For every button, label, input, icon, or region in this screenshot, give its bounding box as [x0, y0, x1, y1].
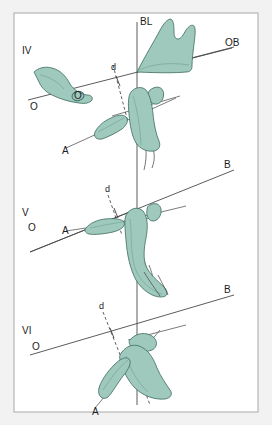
panel-label-vi: VI: [22, 325, 31, 336]
panel-label-v: V: [22, 207, 29, 218]
figure-root: IV BL OB O O d A V B O: [0, 0, 272, 425]
label-d-panel-v: d: [105, 184, 110, 194]
label-b-panel-v: B: [224, 159, 231, 170]
label-o-panel-iv: O: [30, 101, 38, 112]
label-a-panel-vi: A: [92, 406, 99, 417]
label-bl: BL: [140, 16, 153, 27]
label-a-panel-iv: A: [62, 145, 69, 156]
label-b-panel-vi: B: [224, 284, 231, 295]
label-o-on-bone-panel-iv: O: [74, 90, 82, 101]
anatomical-diagram-svg: IV BL OB O O d A V B O: [0, 0, 272, 425]
label-d-panel-vi: d: [99, 301, 104, 311]
panel-label-iv: IV: [22, 45, 32, 56]
label-d-panel-iv: d: [111, 62, 116, 72]
label-a-panel-v: A: [62, 225, 69, 236]
label-o-panel-v: O: [28, 222, 36, 233]
label-o-panel-vi: O: [32, 341, 40, 352]
label-ob: OB: [225, 37, 240, 48]
